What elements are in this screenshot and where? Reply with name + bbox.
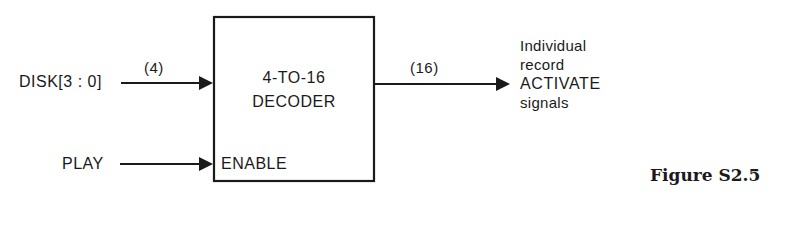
output-description: Individual record ACTIVATE signals xyxy=(520,36,601,112)
disk-arrowhead-icon xyxy=(199,76,213,90)
output-arrowhead-icon xyxy=(496,77,510,91)
figure-caption: Figure S2.5 xyxy=(650,165,760,185)
output-description-line: signals xyxy=(520,93,601,112)
output-description-line: Individual xyxy=(520,36,601,55)
enable-port-label: ENABLE xyxy=(221,155,287,173)
decoder-title-line1: 4-TO-16 xyxy=(214,66,374,90)
output-description-line: record xyxy=(520,55,601,74)
disk-input-label: DISK[3 : 0] xyxy=(19,73,102,91)
output-description-line: ACTIVATE xyxy=(520,74,601,93)
decoder-title: 4-TO-16 DECODER xyxy=(214,66,374,114)
play-input-label: PLAY xyxy=(62,155,104,173)
play-arrowhead-icon xyxy=(199,157,213,171)
output-bus-width: (16) xyxy=(410,59,439,76)
decoder-title-line2: DECODER xyxy=(214,90,374,114)
disk-bus-width: (4) xyxy=(144,59,164,76)
